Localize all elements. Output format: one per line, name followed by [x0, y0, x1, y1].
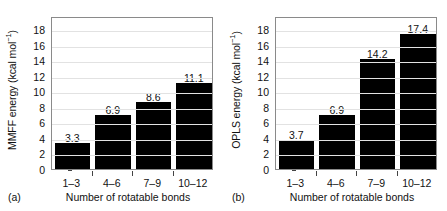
bar-value-label: 6.9	[319, 105, 355, 116]
y-axis-title-a-exponent: −1	[4, 33, 13, 41]
x-axis-tick-label: 10–12	[169, 178, 217, 189]
gridline	[52, 93, 212, 94]
y-axis-title-b: OPLS energy (kcal mol−1)	[228, 5, 244, 175]
gridline	[52, 62, 212, 63]
y-axis-tick-label: 18	[22, 25, 45, 35]
y-axis-tick-labels-b: 024681012141618	[246, 0, 269, 211]
gridline	[52, 47, 212, 48]
y-axis-tick-label: 2	[22, 149, 45, 159]
x-axis-tick-mark	[132, 171, 133, 176]
bar-value-label: 14.2	[360, 49, 396, 60]
gridline	[52, 155, 212, 156]
y-axis-tick-label: 16	[22, 41, 45, 51]
y-axis-tick-label: 12	[246, 72, 269, 82]
y-axis-tick-label: 8	[246, 103, 269, 113]
bar[interactable]	[400, 34, 436, 169]
x-axis-title-b: Number of rotatable bonds	[262, 191, 442, 203]
y-axis-tick-mark	[68, 170, 72, 171]
chart-panel-a: MMFF energy (kcal mol−1) 024681012141618…	[0, 0, 223, 211]
y-axis-title-b-exponent: −1	[228, 35, 237, 43]
gridline	[276, 109, 436, 110]
x-axis-tick-mark	[92, 171, 93, 176]
y-axis-tick-label: 14	[22, 56, 45, 66]
bar-value-label: 17.4	[400, 24, 436, 35]
gridline	[52, 109, 212, 110]
gridline	[276, 124, 436, 125]
x-axis-tick-label: 10–12	[393, 178, 441, 189]
y-axis-title-a-text: MMFF energy (kcal mol	[6, 42, 18, 150]
panel-label-a: (a)	[8, 191, 21, 203]
y-axis-tick-labels-a: 024681012141618	[22, 0, 45, 211]
panel-label-b: (b)	[232, 191, 245, 203]
figure-root: MMFF energy (kcal mol−1) 024681012141618…	[0, 0, 447, 211]
gridline	[276, 31, 436, 32]
x-axis-tick-mark	[356, 171, 357, 176]
y-axis-tick-label: 10	[22, 87, 45, 97]
gridline	[52, 78, 212, 79]
y-axis-tick-label: 14	[246, 56, 269, 66]
gridline	[52, 140, 212, 141]
gridline	[276, 140, 436, 141]
y-axis-tick-label: 18	[246, 25, 269, 35]
x-axis-title-a: Number of rotatable bonds	[38, 191, 218, 203]
y-axis-tick-label: 16	[246, 41, 269, 51]
y-axis-tick-mark	[292, 170, 296, 171]
gridline	[276, 62, 436, 63]
y-axis-tick-label: 0	[246, 165, 269, 175]
bar-value-label: 3.3	[55, 133, 91, 144]
y-axis-tick-label: 2	[246, 149, 269, 159]
bar[interactable]	[136, 102, 172, 169]
gridline	[276, 155, 436, 156]
y-axis-tick-label: 12	[22, 72, 45, 82]
y-axis-tick-label: 8	[22, 103, 45, 113]
gridline	[276, 47, 436, 48]
y-axis-title-a: MMFF energy (kcal mol−1)	[4, 5, 20, 175]
y-axis-tick-label: 4	[246, 134, 269, 144]
y-axis-title-a-paren: )	[6, 30, 18, 33]
y-axis-tick-label: 0	[22, 165, 45, 175]
chart-panel-b: OPLS energy (kcal mol−1) 024681012141618…	[224, 0, 447, 211]
y-axis-tick-label: 10	[246, 87, 269, 97]
bar[interactable]	[360, 59, 396, 169]
y-axis-title-b-paren: )	[230, 31, 242, 34]
x-axis-tick-mark	[316, 171, 317, 176]
plot-area-b: 3.76.914.217.4	[275, 17, 437, 170]
gridline	[276, 78, 436, 79]
y-axis-tick-label: 6	[22, 118, 45, 128]
y-axis-tick-label: 4	[22, 134, 45, 144]
x-axis-tick-mark	[397, 171, 398, 176]
gridline	[276, 93, 436, 94]
plot-area-a: 3.36.98.611.1	[51, 17, 213, 170]
gridline	[52, 31, 212, 32]
x-axis-tick-mark	[173, 171, 174, 176]
gridline	[52, 124, 212, 125]
y-axis-title-b-text: OPLS energy (kcal mol	[230, 43, 242, 149]
bar-value-label: 6.9	[95, 105, 131, 116]
y-axis-tick-label: 6	[246, 118, 269, 128]
